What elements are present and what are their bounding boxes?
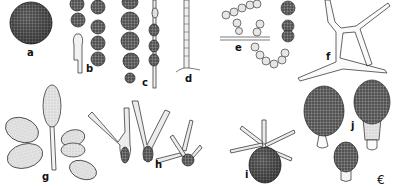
panel-d-hypha [176, 0, 200, 72]
panel-a-spore [10, 2, 52, 44]
panel-label-i: i [245, 170, 248, 180]
panel-h-staurospores [88, 101, 202, 166]
illustration-plate: a b c d e f g h i j € [0, 0, 399, 188]
panel-label-f: f [326, 52, 330, 62]
panel-label-e: e [235, 43, 242, 53]
panel-label-j: j [351, 121, 354, 131]
panel-label-h: h [155, 160, 162, 170]
panel-f-hyphae [298, 0, 390, 81]
panel-label-c: c [142, 78, 148, 88]
plate-drawing [0, 0, 399, 188]
panel-g-conidia [2, 85, 99, 183]
panel-c-chains [121, 0, 159, 88]
panel-label-b: b [86, 64, 93, 74]
panel-e-chains [220, 0, 295, 68]
panel-i-radiate-conidium [230, 120, 295, 183]
panel-label-g: g [42, 172, 49, 182]
artist-signature: € [377, 174, 385, 186]
panel-label-d: d [185, 74, 192, 84]
panel-j-conidia [304, 80, 390, 182]
panel-label-a: a [27, 48, 34, 58]
